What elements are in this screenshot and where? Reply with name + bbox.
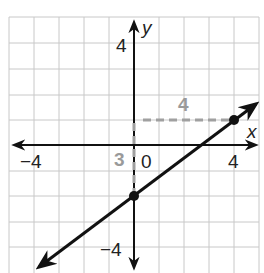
y-axis-label: y — [140, 17, 153, 38]
point-y-intercept — [129, 191, 139, 201]
point-4-1 — [229, 115, 239, 125]
x-tick-neg4: −4 — [20, 151, 42, 172]
x-axis-label: x — [246, 121, 258, 142]
rise-label: 3 — [114, 149, 125, 170]
y-tick-neg4: −4 — [100, 239, 122, 260]
x-tick-4: 4 — [228, 151, 239, 172]
plotted-line — [39, 104, 256, 267]
x-tick-0: 0 — [141, 151, 152, 172]
y-tick-4: 4 — [116, 35, 127, 56]
run-label: 4 — [178, 94, 189, 115]
coordinate-plane: y x 4 −4 −4 0 4 3 4 — [0, 0, 264, 273]
